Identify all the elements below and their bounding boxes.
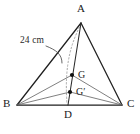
point-G-dot (70, 73, 74, 77)
vertex-label-C: C (127, 98, 134, 109)
measure-leader-line (46, 46, 62, 63)
vertex-label-A: A (77, 3, 85, 14)
vertex-label-D: D (64, 109, 72, 120)
geometry-figure: A B C D G G′ 24 cm (0, 0, 140, 134)
edge-BG-line (17, 75, 72, 105)
measurement-label-24cm: 24 cm (20, 36, 44, 46)
point-label-G: G (78, 70, 85, 80)
point-label-G-prime: G′ (76, 87, 85, 97)
vertex-label-B: B (3, 98, 10, 109)
point-Gprime-dot (68, 90, 72, 94)
